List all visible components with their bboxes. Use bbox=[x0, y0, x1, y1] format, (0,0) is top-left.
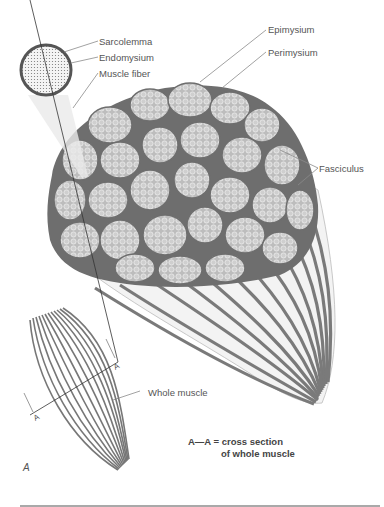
label-sarcolemma: Sarcolemma bbox=[99, 37, 152, 47]
label-fasciculus: Fasciculus bbox=[319, 164, 364, 174]
caption-line-2: of whole muscle bbox=[188, 448, 295, 460]
label-perimysium: Perimysium bbox=[268, 48, 318, 58]
caption: A—A = cross section of whole muscle bbox=[188, 436, 295, 461]
label-epimysium: Epimysium bbox=[268, 25, 314, 35]
panel-label: A bbox=[23, 462, 30, 473]
label-whole-muscle: Whole muscle bbox=[148, 388, 208, 398]
muscle-anatomy-diagram bbox=[0, 0, 384, 507]
caption-line-1: A—A = cross section bbox=[188, 436, 295, 448]
muscle-fiber-magnified bbox=[21, 45, 88, 178]
label-muscle-fiber: Muscle fiber bbox=[99, 69, 150, 79]
muscle-cross-section bbox=[47, 83, 318, 287]
label-endomysium: Endomysium bbox=[99, 53, 154, 63]
